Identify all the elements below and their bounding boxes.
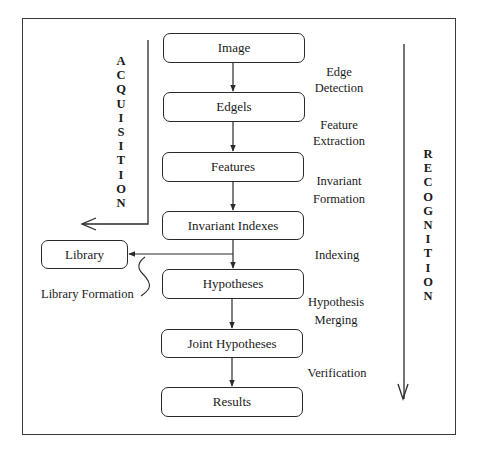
node-edgels-label: Edgels — [216, 99, 251, 115]
node-features-label: Features — [211, 159, 255, 175]
object-recognition-flowchart: Image Edgels Features Invariant Indexes … — [0, 0, 477, 451]
node-hypotheses: Hypotheses — [162, 269, 304, 299]
step-label-feature-extraction: Feature Extraction — [313, 117, 365, 149]
step-label-hypothesis-merging: Hypothesis Merging — [308, 293, 364, 329]
node-results: Results — [161, 387, 303, 417]
node-edgels: Edgels — [163, 92, 305, 122]
node-invariant-indexes: Invariant Indexes — [162, 211, 304, 240]
node-image: Image — [163, 33, 305, 63]
step-label-indexing: Indexing — [315, 247, 359, 263]
node-image-label: Image — [218, 40, 250, 56]
step-label-invariant-formation: Invariant Formation — [313, 172, 365, 208]
node-results-label: Results — [213, 394, 251, 410]
step-label-edge-detection: Edge Detection — [315, 64, 364, 96]
step-label-verification: Verification — [307, 365, 366, 381]
node-library-label: Library — [65, 247, 104, 263]
node-joint-hypotheses: Joint Hypotheses — [161, 329, 303, 358]
node-hypotheses-label: Hypotheses — [203, 276, 264, 292]
node-features: Features — [162, 152, 304, 182]
library-formation-label: Library Formation — [41, 287, 134, 302]
node-joint-hypotheses-label: Joint Hypotheses — [187, 336, 276, 352]
node-library: Library — [41, 240, 128, 269]
node-invariant-indexes-label: Invariant Indexes — [188, 218, 279, 234]
recognition-phase-label: R E C O G N I T I O N — [423, 147, 433, 303]
acquisition-phase-label: A C Q U I S I T I O N — [116, 54, 126, 210]
